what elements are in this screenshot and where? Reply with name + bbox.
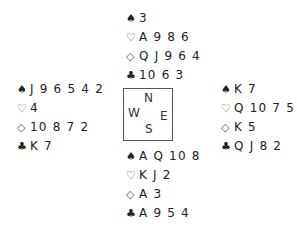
south-hearts: ♡K J 2 xyxy=(126,166,201,185)
east-clubs-cards: Q J 8 2 xyxy=(234,139,282,153)
west-diamonds: ◇10 8 7 2 xyxy=(17,118,104,137)
club-icon: ♣ xyxy=(126,204,139,223)
south-spades: ♠A Q 10 8 xyxy=(126,147,201,166)
north-hand: ♠3 ♡A 9 8 6 ◇Q J 9 6 4 ♣10 6 3 xyxy=(126,9,201,85)
compass-west: W xyxy=(128,106,140,120)
compass-north: N xyxy=(144,91,153,105)
north-clubs-cards: 10 6 3 xyxy=(139,68,184,82)
heart-icon: ♡ xyxy=(126,166,139,185)
east-spades: ♠K 7 xyxy=(221,80,297,99)
north-hearts: ♡A 9 8 6 xyxy=(126,28,201,47)
east-diamonds: ◇K 5 xyxy=(221,118,297,137)
compass-south: S xyxy=(145,122,153,136)
west-hand: ♠J 9 6 5 4 2 ♡4 ◇10 8 7 2 ♣K 7 xyxy=(17,80,104,156)
spade-icon: ♠ xyxy=(126,147,139,166)
diamond-icon: ◇ xyxy=(126,185,139,204)
heart-icon: ♡ xyxy=(17,99,30,118)
west-clubs-cards: K 7 xyxy=(30,139,53,153)
heart-icon: ♡ xyxy=(221,99,234,118)
heart-icon: ♡ xyxy=(126,28,139,47)
west-spades-cards: J 9 6 5 4 2 xyxy=(30,82,104,96)
west-hearts-cards: 4 xyxy=(30,101,39,115)
south-clubs-cards: A 9 5 4 xyxy=(139,206,190,220)
north-diamonds: ◇Q J 9 6 4 xyxy=(126,47,201,66)
spade-icon: ♠ xyxy=(221,80,234,99)
diamond-icon: ◇ xyxy=(126,47,139,66)
club-icon: ♣ xyxy=(221,137,234,156)
south-hand: ♠A Q 10 8 ♡K J 2 ◇A 3 ♣A 9 5 4 xyxy=(126,147,201,223)
north-spades-cards: 3 xyxy=(139,11,148,25)
south-hearts-cards: K J 2 xyxy=(139,168,172,182)
west-diamonds-cards: 10 8 7 2 xyxy=(30,120,89,134)
north-clubs: ♣10 6 3 xyxy=(126,66,201,85)
west-spades: ♠J 9 6 5 4 2 xyxy=(17,80,104,99)
north-spades: ♠3 xyxy=(126,9,201,28)
spade-icon: ♠ xyxy=(126,9,139,28)
east-hand: ♠K 7 ♡Q 10 7 5 3 ◇K 5 ♣Q J 8 2 xyxy=(221,80,297,156)
south-clubs: ♣A 9 5 4 xyxy=(126,204,201,223)
east-hearts-cards: Q 10 7 5 3 xyxy=(234,101,297,115)
east-spades-cards: K 7 xyxy=(234,82,257,96)
north-diamonds-cards: Q J 9 6 4 xyxy=(139,49,201,63)
south-diamonds: ◇A 3 xyxy=(126,185,201,204)
east-clubs: ♣Q J 8 2 xyxy=(221,137,297,156)
east-diamonds-cards: K 5 xyxy=(234,120,257,134)
north-hearts-cards: A 9 8 6 xyxy=(139,30,190,44)
diamond-icon: ◇ xyxy=(17,118,30,137)
south-diamonds-cards: A 3 xyxy=(139,187,162,201)
compass-box: N W E S xyxy=(123,88,173,141)
club-icon: ♣ xyxy=(126,66,139,85)
west-hearts: ♡4 xyxy=(17,99,104,118)
spade-icon: ♠ xyxy=(17,80,30,99)
east-hearts: ♡Q 10 7 5 3 xyxy=(221,99,297,118)
club-icon: ♣ xyxy=(17,137,30,156)
diamond-icon: ◇ xyxy=(221,118,234,137)
south-spades-cards: A Q 10 8 xyxy=(139,149,201,163)
compass-east: E xyxy=(160,109,168,123)
west-clubs: ♣K 7 xyxy=(17,137,104,156)
